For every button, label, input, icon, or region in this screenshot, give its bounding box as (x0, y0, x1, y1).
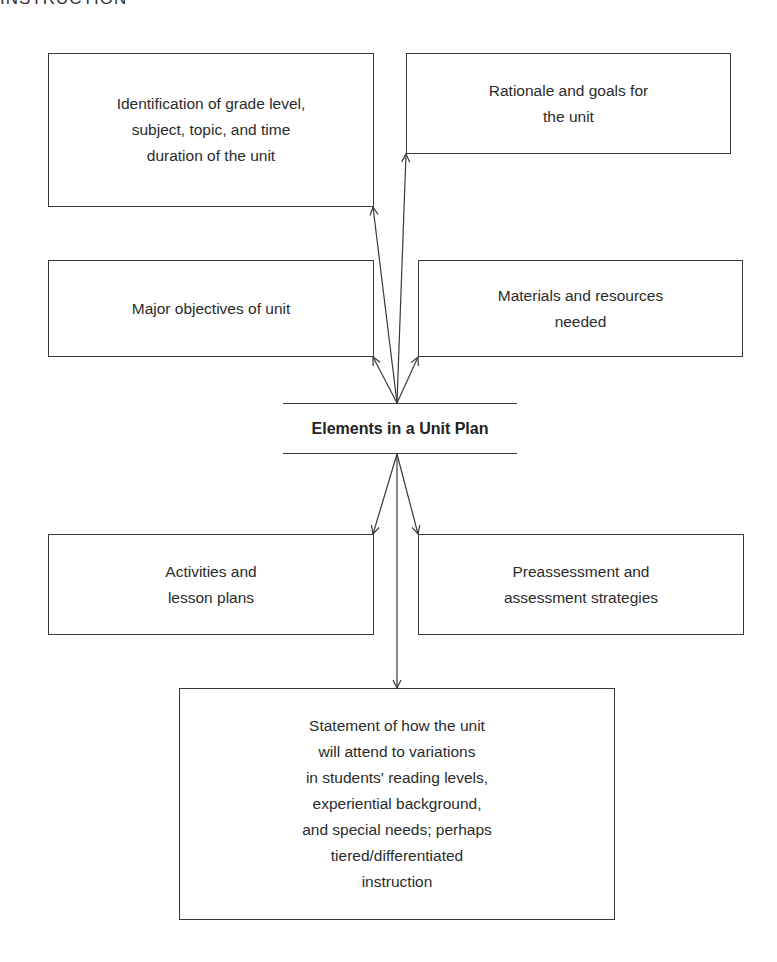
box-variations: Statement of how the unit will attend to… (179, 688, 615, 920)
box-assessment: Preassessment and assessment strategies (418, 534, 744, 635)
box-identification: Identification of grade level, subject, … (48, 53, 374, 207)
central-title: Elements in a Unit Plan (283, 403, 517, 454)
box-identification-label: Identification of grade level, subject, … (117, 91, 306, 169)
arrow-to-activities (373, 454, 397, 534)
box-variations-label: Statement of how the unit will attend to… (302, 713, 492, 895)
box-objectives: Major objectives of unit (48, 260, 374, 357)
arrow-to-objectives (373, 357, 397, 403)
box-rationale-label: Rationale and goals for the unit (489, 78, 648, 130)
central-title-text: Elements in a Unit Plan (312, 420, 489, 438)
arrow-to-identification (373, 207, 397, 403)
arrow-to-materials (397, 357, 418, 403)
box-rationale: Rationale and goals for the unit (406, 53, 731, 154)
arrow-to-assessment (397, 454, 418, 534)
box-objectives-label: Major objectives of unit (132, 296, 291, 322)
arrow-to-rationale (397, 154, 406, 403)
box-materials-label: Materials and resources needed (498, 283, 663, 335)
box-assessment-label: Preassessment and assessment strategies (504, 559, 658, 611)
running-header: INSTRUCTION (0, 0, 127, 9)
box-activities: Activities and lesson plans (48, 534, 374, 635)
box-activities-label: Activities and lesson plans (165, 559, 256, 611)
box-materials: Materials and resources needed (418, 260, 743, 357)
